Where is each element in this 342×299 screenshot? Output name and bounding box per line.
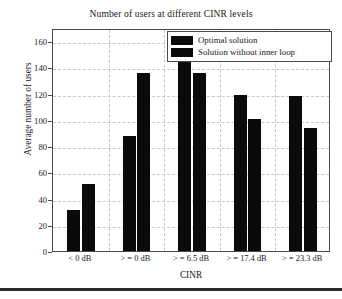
- bar: [137, 73, 150, 251]
- y-axis-label: Average number of users: [23, 34, 33, 184]
- page-separator-rule: [0, 288, 342, 291]
- chart-legend: Optimal solution Solution without inner …: [167, 31, 332, 62]
- bar: [304, 128, 317, 251]
- legend-label: Solution without inner loop: [198, 47, 295, 57]
- bar: [289, 96, 302, 251]
- legend-item-optimal-solution: Optimal solution: [171, 34, 328, 46]
- y-tick-label: 100: [7, 116, 47, 126]
- y-tick-label: 160: [7, 37, 47, 47]
- y-tick-label: 120: [7, 90, 47, 100]
- y-tick-label: 0: [7, 247, 47, 257]
- gridline-vertical: [109, 30, 110, 251]
- bar: [248, 119, 261, 251]
- bar: [82, 184, 95, 251]
- y-tick-label: 60: [7, 168, 47, 178]
- y-tick-mark: [48, 252, 52, 253]
- y-tick-label: 140: [7, 63, 47, 73]
- chart-title: Number of users at different CINR levels: [0, 9, 342, 19]
- plot-area: [52, 29, 330, 252]
- gridline-vertical: [164, 30, 165, 251]
- legend-item-solution-without-inner-loop: Solution without inner loop: [171, 46, 328, 58]
- bar: [178, 52, 191, 251]
- gridline-vertical: [275, 30, 276, 251]
- bar: [193, 73, 206, 251]
- bar: [67, 210, 80, 251]
- x-tick-label: > = 23.3 dB: [267, 254, 337, 263]
- gridline-vertical: [220, 30, 221, 251]
- legend-swatch-icon: [171, 48, 193, 57]
- x-axis-label: CINR: [52, 270, 330, 280]
- bar: [123, 136, 136, 251]
- y-tick-label: 40: [7, 195, 47, 205]
- bar: [234, 95, 247, 251]
- y-tick-label: 80: [7, 142, 47, 152]
- y-tick-label: 20: [7, 221, 47, 231]
- legend-swatch-icon: [171, 36, 193, 45]
- legend-label: Optimal solution: [198, 35, 257, 45]
- chart-figure: Number of users at different CINR levels…: [0, 0, 342, 299]
